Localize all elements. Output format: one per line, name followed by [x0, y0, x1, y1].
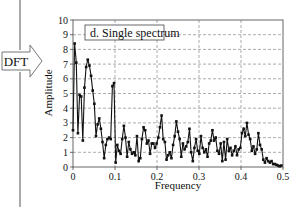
data-point-marker: [83, 86, 86, 89]
data-point-marker: [121, 138, 124, 141]
data-point-marker: [85, 66, 88, 69]
data-point-marker: [146, 142, 149, 145]
data-point-marker: [172, 144, 175, 147]
data-point-marker: [242, 127, 245, 130]
data-point-marker: [203, 151, 206, 154]
data-point-marker: [224, 158, 227, 161]
data-point-marker: [77, 132, 80, 135]
data-point-marker: [247, 133, 250, 136]
data-point-marker: [255, 148, 258, 151]
y-tick-label: 10: [58, 15, 68, 26]
data-point-marker: [100, 127, 103, 130]
data-point-marker: [169, 151, 172, 154]
y-tick-label: 3: [63, 117, 68, 128]
data-point-marker: [196, 150, 199, 153]
data-point-marker: [73, 42, 76, 45]
data-point-marker: [180, 155, 183, 158]
data-point-marker: [223, 141, 226, 144]
dft-label: DFT: [4, 54, 29, 69]
series-line: [73, 44, 281, 167]
data-point-marker: [88, 64, 91, 67]
data-point-marker: [170, 157, 173, 160]
data-point-marker: [75, 61, 78, 64]
x-axis-label: Frequency: [155, 179, 202, 191]
data-point-marker: [175, 120, 178, 123]
data-point-marker: [214, 136, 217, 139]
data-point-marker: [265, 157, 268, 160]
y-tick-label: 6: [63, 73, 68, 84]
data-point-marker: [182, 142, 185, 145]
dft-arrow: DFT: [2, 45, 42, 77]
data-point-marker: [213, 139, 216, 142]
data-point-marker: [249, 138, 252, 141]
data-point-marker: [141, 138, 144, 141]
data-point-marker: [105, 144, 108, 147]
data-point-marker: [234, 145, 237, 148]
data-point-marker: [136, 135, 139, 138]
data-point-marker: [167, 154, 170, 157]
y-axis-label: Amplitude: [42, 69, 54, 116]
data-point-marker: [257, 132, 260, 135]
figure-panel: DFT 01234567891000.10.20.30.40.5 d. Sing…: [0, 0, 299, 207]
data-point-marker: [246, 122, 249, 125]
data-point-marker: [221, 160, 224, 163]
y-tick-label: 8: [63, 44, 68, 55]
data-point-marker: [113, 82, 116, 85]
data-point-marker: [195, 138, 198, 141]
data-point-marker: [93, 102, 96, 105]
data-point-marker: [119, 152, 122, 155]
data-point-marker: [187, 141, 190, 144]
y-tick-label: 0: [63, 162, 68, 173]
data-point-marker: [183, 148, 186, 151]
data-point-marker: [134, 154, 137, 157]
data-point-marker: [123, 125, 126, 128]
data-point-marker: [173, 135, 176, 138]
data-point-marker: [139, 157, 142, 160]
data-point-marker: [231, 154, 234, 157]
data-point-marker: [205, 148, 208, 151]
data-point-marker: [198, 152, 201, 155]
data-point-marker: [200, 135, 203, 138]
data-point-marker: [241, 132, 244, 135]
data-point-marker: [96, 123, 99, 126]
data-point-marker: [152, 142, 155, 145]
data-point-marker: [160, 114, 163, 117]
data-point-marker: [137, 160, 140, 163]
x-tick-label: 0.5: [277, 171, 290, 182]
data-point-marker: [229, 147, 232, 150]
chart-title-box: d. Single spectrum: [85, 25, 180, 40]
data-point-marker: [244, 135, 247, 138]
data-point-marker: [264, 161, 267, 164]
data-point-marker: [132, 151, 135, 154]
data-point-marker: [218, 152, 221, 155]
data-point-marker: [191, 160, 194, 163]
data-point-marker: [259, 144, 262, 147]
data-point-marker: [219, 142, 222, 145]
data-point-marker: [254, 152, 257, 155]
data-point-marker: [210, 139, 213, 142]
data-point-marker: [98, 117, 101, 120]
data-point-marker: [149, 152, 152, 155]
data-point-marker: [251, 150, 254, 153]
data-point-marker: [236, 154, 239, 157]
chart-svg: DFT 01234567891000.10.20.30.40.5 d. Sing…: [0, 0, 299, 207]
y-tick-label: 2: [63, 132, 68, 143]
data-point-marker: [124, 136, 127, 139]
data-point-marker: [118, 150, 121, 153]
data-point-marker: [164, 141, 167, 144]
data-point-marker: [190, 151, 193, 154]
chart-title: d. Single spectrum: [90, 26, 180, 40]
data-point-marker: [90, 75, 93, 78]
data-point-marker: [260, 148, 263, 151]
data-point-marker: [206, 155, 209, 158]
data-point-marker: [232, 150, 235, 153]
data-point-marker: [111, 85, 114, 88]
data-point-marker: [177, 130, 180, 133]
data-point-marker: [127, 141, 130, 144]
x-tick-label: 0.1: [109, 171, 122, 182]
data-point-marker: [228, 150, 231, 153]
data-point-marker: [114, 161, 117, 164]
data-point-marker: [103, 157, 106, 160]
data-point-marker: [165, 158, 168, 161]
data-point-marker: [109, 138, 112, 141]
